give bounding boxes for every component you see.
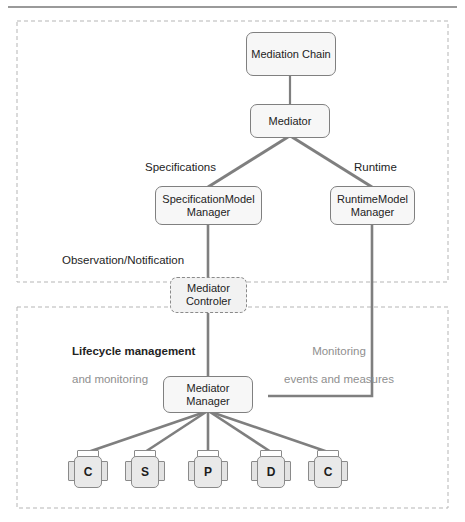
node-specification-model-manager-label: SpecificationModel Manager xyxy=(159,193,257,219)
edge-manager-to-component-1 xyxy=(88,412,205,452)
node-mediator-controler[interactable]: Mediator Controler xyxy=(170,277,247,313)
component-icon[interactable]: C xyxy=(306,450,350,490)
edge-label-lifecycle-management: Lifecycle management and monitoring xyxy=(72,330,195,400)
component-letter: C xyxy=(314,456,342,488)
node-runtime-model-manager-label: RuntimeModel Manager xyxy=(334,193,411,219)
edge-label-lifecycle-line-1: Lifecycle management xyxy=(72,344,195,358)
edge-label-observation-notification: Observation/Notification xyxy=(62,239,184,267)
component-icon[interactable]: S xyxy=(123,450,167,490)
edge-label-monitoring-line-2: events and measures xyxy=(284,372,394,386)
edge-manager-to-component-2 xyxy=(145,412,206,452)
component-letter: C xyxy=(74,456,102,488)
edge-label-monitoring-line-1: Monitoring xyxy=(284,344,394,358)
edge-label-specifications-text: Specifications xyxy=(145,161,216,173)
edge-label-lifecycle-line-2: and monitoring xyxy=(72,372,195,386)
node-mediation-chain-label: Mediation Chain xyxy=(248,48,334,61)
node-mediator-controler-label: Mediator Controler xyxy=(183,282,234,308)
node-mediation-chain[interactable]: Mediation Chain xyxy=(246,32,336,76)
component-icon[interactable]: P xyxy=(186,450,230,490)
edge-label-monitoring: Monitoring events and measures xyxy=(284,330,394,400)
edge-label-specifications: Specifications xyxy=(145,146,216,174)
edge-label-runtime: Runtime xyxy=(354,146,397,174)
node-mediator-label: Mediator xyxy=(266,115,315,128)
component-icon[interactable]: D xyxy=(249,450,293,490)
component-icon[interactable]: C xyxy=(66,450,110,490)
edge-label-observation-notification-text: Observation/Notification xyxy=(62,254,184,266)
edge-mediator-to-specmodel xyxy=(208,137,288,187)
edge-manager-to-component-4 xyxy=(210,412,271,452)
node-specification-model-manager[interactable]: SpecificationModel Manager xyxy=(155,186,262,225)
component-letter: S xyxy=(131,456,159,488)
node-mediator[interactable]: Mediator xyxy=(250,104,330,138)
edge-label-runtime-text: Runtime xyxy=(354,161,397,173)
component-letter: P xyxy=(194,456,222,488)
architecture-diagram: Mediation Chain Mediator SpecificationMo… xyxy=(0,0,465,522)
node-runtime-model-manager[interactable]: RuntimeModel Manager xyxy=(330,186,415,225)
component-letter: D xyxy=(257,456,285,488)
edge-manager-to-component-5 xyxy=(211,412,328,452)
